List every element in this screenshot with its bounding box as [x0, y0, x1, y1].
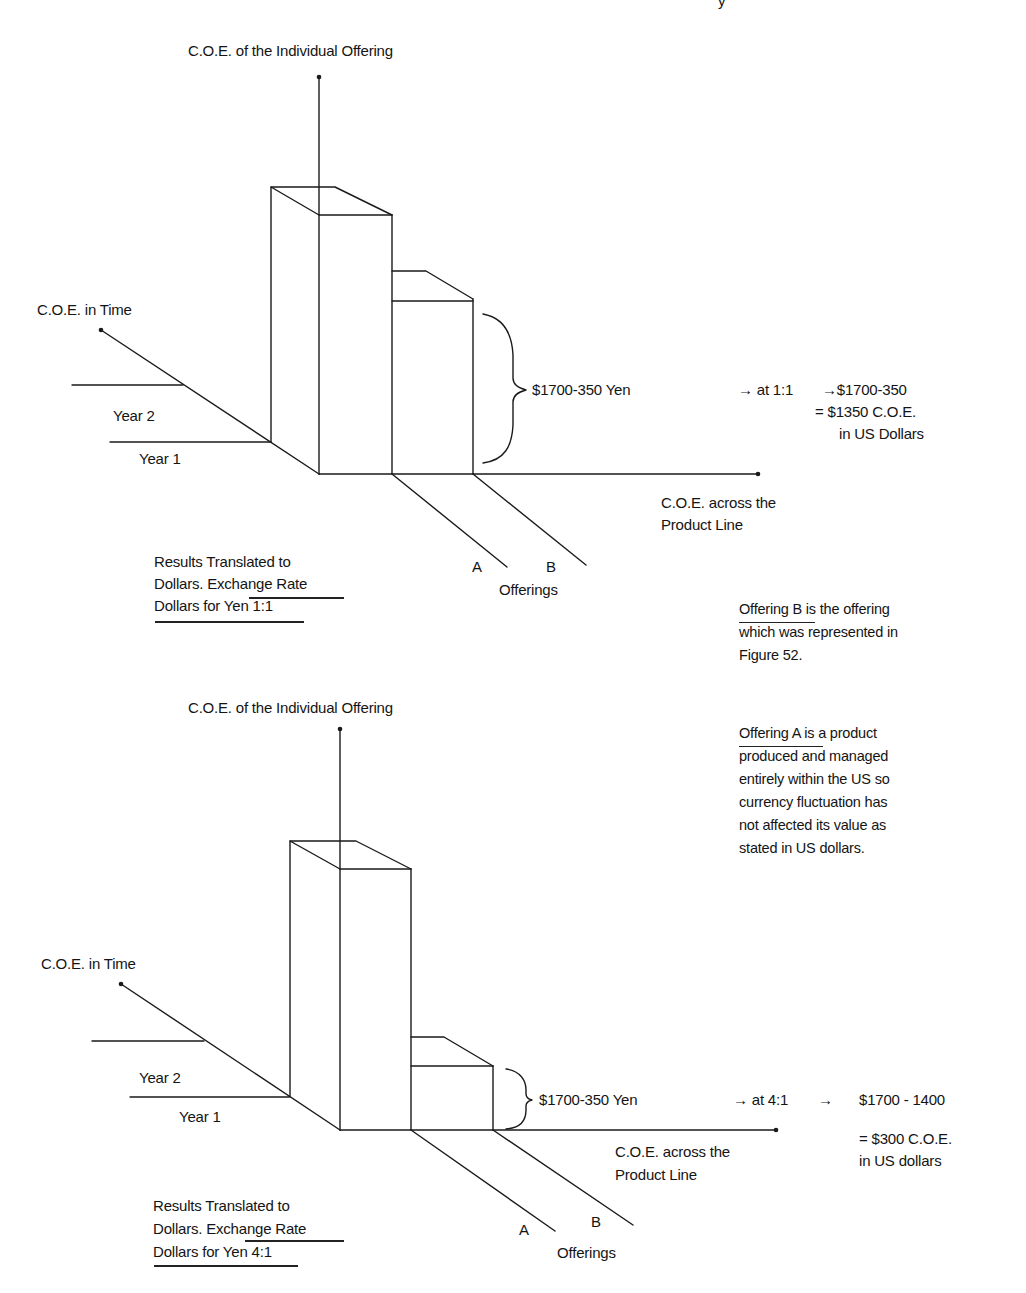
top-horizontal-axis-label-1: C.O.E. across the: [661, 494, 776, 512]
note-a-line2: produced and managed: [739, 745, 959, 768]
bottom-offering-a-line: [411, 1130, 555, 1231]
bottom-horizontal-axis-label-1: C.O.E. across the: [615, 1143, 730, 1161]
bottom-caption-underline-1: [245, 1240, 344, 1242]
bottom-caption-line2: Dollars. Exchange Rate: [153, 1220, 306, 1238]
top-conversion-expression: →$1700-350: [822, 381, 907, 399]
note-b-line1: Offering B is the offering: [739, 598, 959, 621]
note-a-line6: stated in US dollars.: [739, 837, 959, 860]
bottom-vertical-axis-label: C.O.E. of the Individual Offering: [188, 699, 393, 717]
bottom-caption-underline-2: [154, 1265, 298, 1267]
top-conversion-unit: in US Dollars: [839, 425, 924, 443]
top-time-axis-label: C.O.E. in Time: [37, 301, 132, 319]
top-offering-b-line: [473, 474, 586, 565]
note-offering-a: Offering A is a product produced and man…: [739, 722, 959, 860]
top-offering-a-label: A: [472, 558, 482, 576]
bottom-brace: [506, 1069, 532, 1129]
note-a-line3: entirely within the US so: [739, 768, 959, 791]
top-caption-line3: Dollars for Yen 1:1: [154, 597, 273, 615]
bottom-offerings-label: Offerings: [557, 1244, 616, 1262]
bottom-conversion-unit: in US dollars: [859, 1152, 941, 1170]
bottom-conversion-expression: $1700 - 1400: [859, 1091, 945, 1109]
bottom-time-axis-label: C.O.E. in Time: [41, 955, 136, 973]
top-brace: [483, 314, 526, 463]
top-horizontal-axis-label-2: Product Line: [661, 516, 743, 534]
top-offerings-label: Offerings: [499, 581, 558, 599]
bottom-time-axis: [121, 984, 340, 1130]
bottom-bar-b: [411, 1037, 493, 1130]
note-a-line1: Offering A is a product: [739, 722, 959, 745]
top-conversion-result: = $1350 C.O.E.: [815, 403, 916, 421]
page-fragment-glyph: y: [718, 0, 726, 9]
top-time-axis: [101, 330, 319, 474]
bottom-caption-line1: Results Translated to: [153, 1197, 290, 1215]
top-brace-label: $1700-350 Yen: [532, 381, 630, 399]
bottom-offering-a-label: A: [519, 1221, 529, 1239]
top-caption-underline-2: [155, 621, 304, 623]
top-year2-label: Year 2: [113, 407, 155, 425]
top-bar-b: [392, 271, 473, 474]
top-offering-b-label: B: [546, 558, 556, 576]
bottom-conversion-result: = $300 C.O.E.: [859, 1130, 952, 1148]
top-year1-label: Year 1: [139, 450, 181, 468]
bottom-bar-a: [290, 841, 411, 1130]
top-caption-line1: Results Translated to: [154, 553, 291, 571]
bottom-conversion-arrow: →: [818, 1091, 833, 1109]
top-bar-a: [271, 187, 392, 474]
top-caption-line2: Dollars. Exchange Rate: [154, 575, 307, 593]
note-b-line3: Figure 52.: [739, 644, 959, 667]
note-b-line2: which was represented in: [739, 621, 959, 644]
bottom-brace-label: $1700-350 Yen: [539, 1091, 637, 1109]
bottom-conversion-rate: → at 4:1: [733, 1091, 788, 1109]
bottom-caption-line3: Dollars for Yen 4:1: [153, 1243, 272, 1261]
bottom-offering-b-label: B: [591, 1213, 601, 1231]
bottom-offering-b-line: [493, 1130, 633, 1225]
note-offering-b: Offering B is the offering which was rep…: [739, 598, 959, 667]
bottom-year1-label: Year 1: [179, 1108, 221, 1126]
top-conversion-rate: → at 1:1: [738, 381, 793, 399]
top-vertical-axis-label: C.O.E. of the Individual Offering: [188, 42, 393, 60]
bottom-horizontal-axis-label-2: Product Line: [615, 1166, 697, 1184]
top-caption-underline-1: [249, 597, 344, 599]
top-chart-lines: [72, 77, 758, 567]
note-a-line4: currency fluctuation has: [739, 791, 959, 814]
bottom-year2-label: Year 2: [139, 1069, 181, 1087]
note-a-line5: not affected its value as: [739, 814, 959, 837]
